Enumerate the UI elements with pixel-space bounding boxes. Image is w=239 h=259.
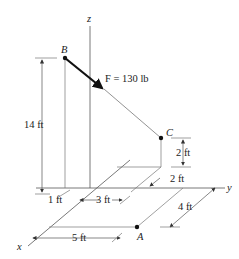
force-arrow — [65, 58, 102, 88]
z-axis-label: z — [86, 13, 91, 24]
point-a — [135, 225, 139, 229]
force-diagram: z y x B C A F = 130 lb 14 ft 1 ft 3 ft 2… — [0, 0, 239, 259]
force-label: F = 130 lb — [105, 73, 149, 84]
point-b — [63, 56, 67, 60]
x-axis-label: x — [16, 241, 22, 252]
dim-5ft: 5 ft — [72, 232, 86, 243]
point-c-label: C — [166, 127, 174, 138]
point-b-label: B — [61, 44, 68, 55]
y-axis-label: y — [226, 182, 232, 193]
dim-3ft: 3 ft — [96, 194, 110, 205]
dim-4ft: 4 ft — [178, 201, 192, 212]
dim-2ft-horizontal: 2 ft — [170, 173, 184, 184]
point-a-label: A — [136, 231, 144, 242]
dim-2ft-vertical: 2 ft — [176, 147, 190, 158]
point-c — [159, 136, 163, 140]
dim-14ft: 14 ft — [24, 119, 44, 130]
dim-1ft: 1 ft — [48, 194, 62, 205]
